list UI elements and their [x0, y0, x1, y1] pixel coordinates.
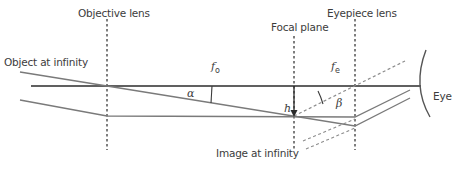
- h-symbol: h: [284, 103, 291, 114]
- object-at-infinity-label: Object at infinity: [4, 57, 88, 68]
- objective-lens-label: Objective lens: [78, 8, 150, 19]
- image-at-infinity-label: Image at infinity: [216, 148, 299, 159]
- beta-symbol: β: [336, 98, 342, 109]
- fe-sub: e: [335, 66, 340, 75]
- beta-construction-line: [294, 61, 405, 116]
- focal-length-eyepiece-symbol: fe: [331, 61, 340, 75]
- focal-plane-label: Focal plane: [271, 22, 328, 33]
- virtual-ray-lower: [306, 128, 355, 149]
- alpha-symbol: α: [187, 88, 194, 99]
- eyepiece-lens-label: Eyepiece lens: [327, 8, 397, 19]
- fo-sub: o: [215, 66, 220, 75]
- ray-upper: [20, 72, 410, 126]
- eye-icon: [420, 50, 430, 117]
- beta-arc: [318, 91, 323, 104]
- focal-length-objective-symbol: fo: [211, 61, 220, 75]
- alpha-arc: [211, 86, 212, 103]
- eye-label: Eye: [433, 91, 452, 102]
